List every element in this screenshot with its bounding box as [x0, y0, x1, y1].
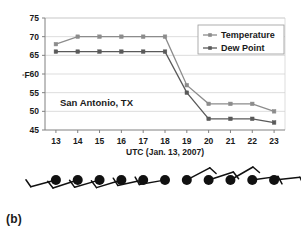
data-point-17-66	[141, 50, 145, 54]
station-circle	[95, 175, 105, 185]
station-circle	[225, 175, 235, 185]
x-axis-ticks: 1314151617181920212223	[51, 130, 279, 146]
data-point-13-66	[54, 50, 58, 54]
plot-annotation-location: San Antonio, TX	[60, 97, 134, 108]
data-point-20-48	[207, 117, 211, 121]
data-point-21-52	[229, 102, 233, 106]
data-point-22-48	[250, 117, 254, 121]
barb-flag	[300, 177, 301, 185]
y-tick-label-50: 50	[30, 106, 40, 116]
y-tick-label-55: 55	[30, 88, 40, 98]
x-axis-title: UTC (Jan. 13, 2007)	[126, 147, 204, 157]
data-point-16-70	[120, 35, 124, 39]
x-tick-label-15: 15	[95, 136, 105, 146]
data-point-19-55	[185, 91, 189, 95]
y-tick-label-65: 65	[30, 50, 40, 60]
data-point-22-52	[250, 102, 254, 106]
meteogram-figure: 45505560657075 1314151617181920212223 °F…	[0, 0, 301, 239]
data-point-14-66	[76, 50, 80, 54]
figure-caption: (b)	[6, 212, 22, 226]
legend-swatch-marker	[208, 33, 212, 37]
x-tick-label-13: 13	[51, 136, 61, 146]
station-circle	[160, 175, 170, 185]
data-point-21-48	[229, 117, 233, 121]
station-circle	[204, 175, 214, 185]
data-point-23-50	[272, 110, 276, 114]
barb-flag	[26, 180, 31, 187]
data-point-23-47	[272, 121, 276, 125]
legend-swatch-marker	[208, 46, 212, 50]
y-axis-ticks: 45505560657075	[30, 13, 45, 135]
chart-canvas: 45505560657075 1314151617181920212223 °F…	[0, 0, 301, 239]
legend-label: Dew Point	[221, 43, 265, 53]
barb-flag	[210, 168, 216, 174]
x-tick-label-14: 14	[73, 136, 83, 146]
data-point-15-70	[98, 35, 102, 39]
station-circle	[73, 175, 83, 185]
data-point-15-66	[98, 50, 102, 54]
x-tick-label-18: 18	[160, 136, 170, 146]
data-point-18-66	[163, 50, 167, 54]
y-tick-label-60: 60	[30, 69, 40, 79]
fahrenheit-letter: F	[24, 70, 29, 80]
station-circle	[51, 175, 61, 185]
wind-barb-23	[269, 175, 301, 185]
data-point-17-70	[141, 35, 145, 39]
x-tick-label-20: 20	[204, 136, 214, 146]
y-tick-label-75: 75	[30, 13, 40, 23]
legend-label: Temperature	[221, 30, 275, 40]
barb-shaft	[279, 177, 300, 179]
x-tick-label-19: 19	[182, 136, 192, 146]
x-tick-label-17: 17	[138, 136, 148, 146]
wind-barb-13	[26, 175, 61, 187]
station-circle	[269, 175, 279, 185]
data-point-19-57	[185, 83, 189, 87]
chart-legend: TemperatureDew Point	[198, 25, 284, 54]
x-tick-label-23: 23	[269, 136, 279, 146]
station-circle	[247, 175, 257, 185]
data-point-18-70	[163, 35, 167, 39]
x-tick-label-16: 16	[117, 136, 127, 146]
data-point-16-66	[120, 50, 124, 54]
barb-flag	[253, 167, 260, 172]
y-axis-unit-label: °F	[22, 70, 30, 80]
data-point-14-70	[76, 35, 80, 39]
data-point-13-68	[54, 42, 58, 46]
x-tick-label-21: 21	[226, 136, 236, 146]
y-tick-label-45: 45	[30, 125, 40, 135]
x-tick-label-22: 22	[248, 136, 258, 146]
data-point-20-52	[207, 102, 211, 106]
y-tick-label-70: 70	[30, 32, 40, 42]
wind-barb-row	[26, 167, 301, 188]
station-circle	[182, 175, 192, 185]
